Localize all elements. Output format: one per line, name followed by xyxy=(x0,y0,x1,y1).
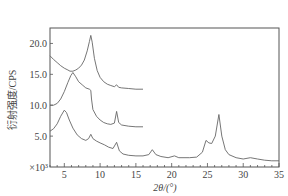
x-tick-label: 10 xyxy=(95,169,105,180)
y-axis-title: 衍射强度/CPS xyxy=(6,70,18,131)
data-series xyxy=(50,35,279,160)
y-multiplier-label: ×10³ xyxy=(29,162,48,173)
y-tick-label: 15.0 xyxy=(30,69,48,80)
x-tick-label: 15 xyxy=(131,169,141,180)
y-tick-label: 20.0 xyxy=(30,38,48,49)
xrd-chart: 5101520253035 5.010.015.020.0 ×10³ 2θ/(°… xyxy=(0,0,288,196)
x-tick-label: 5 xyxy=(62,169,67,180)
plot-frame xyxy=(50,28,279,167)
y-axis-ticks: 5.010.015.020.0 xyxy=(30,38,54,142)
x-tick-label: 35 xyxy=(274,169,284,180)
y-tick-label: 10.0 xyxy=(30,100,48,111)
x-axis-ticks: 5101520253035 xyxy=(50,163,284,180)
x-axis-title: 2θ/(°) xyxy=(153,182,177,194)
series-line-curve-top xyxy=(50,35,143,89)
x-tick-label: 30 xyxy=(238,169,248,180)
series-line-curve-middle xyxy=(50,73,143,127)
y-tick-label: 5.0 xyxy=(35,131,48,142)
x-tick-label: 20 xyxy=(167,169,177,180)
series-line-curve-bottom xyxy=(50,110,279,161)
x-tick-label: 25 xyxy=(202,169,212,180)
